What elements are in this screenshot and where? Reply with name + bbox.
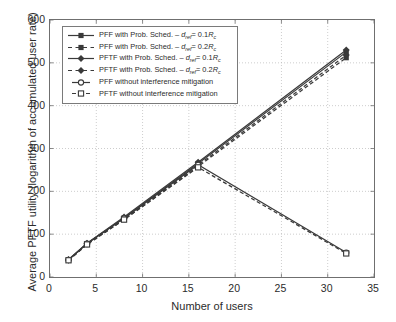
- legend-marker-filled-square: [66, 30, 96, 41]
- legend-item-label: PFTF with Prob. Sched. – dref= 0.2Rc: [99, 66, 221, 76]
- legend-item: PFTF with Prob. Sched. – dref= 0.2Rc: [66, 65, 233, 77]
- x-axis-title: Number of users: [49, 300, 375, 312]
- x-axis-tick-labels: 05101520253035: [49, 282, 375, 296]
- legend-item-label: PFF with Prob. Sched. – dref= 0.2Rc: [99, 43, 216, 53]
- chart-figure: 0100200300400500600 05101520253035 Numbe…: [0, 0, 396, 322]
- y-axis-title: Average PFTF utility (logarithm of accum…: [26, 2, 38, 302]
- legend-item-label: PFF without interference mitigation: [99, 78, 213, 85]
- legend-marker-filled-diamond: [66, 53, 96, 64]
- legend-marker-open-circle: [66, 77, 96, 88]
- chart-legend: PFF with Prob. Sched. – dref= 0.1RcPFF w…: [62, 26, 238, 104]
- x-tick-label: 10: [136, 282, 148, 294]
- x-tick-label: 15: [182, 282, 194, 294]
- x-tick-label: 5: [92, 282, 98, 294]
- legend-marker-filled-square: [66, 42, 96, 53]
- legend-item: PFTF without interference mitigation: [66, 88, 233, 100]
- x-tick-label: 0: [46, 282, 52, 294]
- legend-marker-filled-diamond: [66, 65, 96, 76]
- legend-item-label: PFF with Prob. Sched. – dref= 0.1Rc: [99, 31, 216, 41]
- legend-marker-open-square: [66, 88, 96, 99]
- y-axis-tick-labels: 0100200300400500600: [0, 19, 45, 278]
- legend-item: PFF with Prob. Sched. – dref= 0.1Rc: [66, 30, 233, 42]
- legend-item: PFF without interference mitigation: [66, 76, 233, 88]
- x-tick-label: 25: [275, 282, 287, 294]
- y-tick-label: 0: [39, 270, 45, 282]
- legend-item: PFF with Prob. Sched. – dref= 0.2Rc: [66, 42, 233, 54]
- legend-item-label: PFTF without interference mitigation: [99, 90, 218, 97]
- x-tick-label: 30: [321, 282, 333, 294]
- x-tick-label: 20: [228, 282, 240, 294]
- legend-item-label: PFTF with Prob. Sched. – dref= 0.1Rc: [99, 54, 221, 64]
- x-tick-label: 35: [367, 282, 379, 294]
- legend-item: PFTF with Prob. Sched. – dref= 0.1Rc: [66, 53, 233, 65]
